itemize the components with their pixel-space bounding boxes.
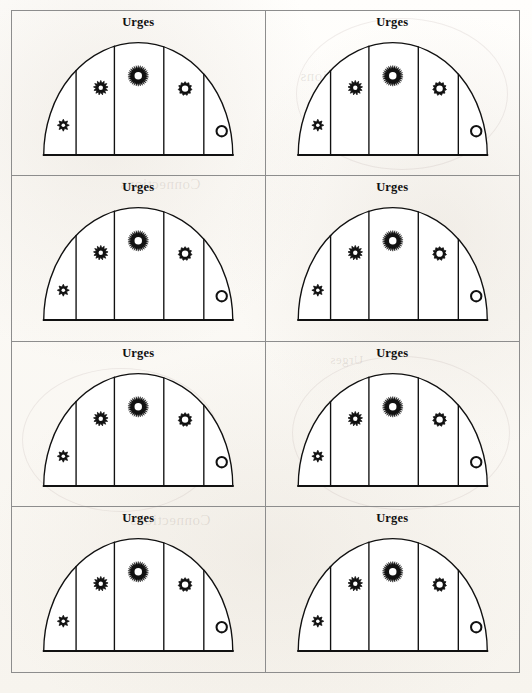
urges-dome-diagram	[266, 194, 520, 326]
eight-point-star-icon	[57, 285, 69, 297]
urges-panel: Urges	[12, 176, 266, 341]
urges-dome-diagram	[266, 29, 520, 161]
dome-container	[266, 360, 520, 492]
plain-circle-icon	[471, 622, 481, 632]
panel-title: Urges	[266, 346, 520, 361]
plain-circle-icon	[471, 457, 481, 467]
panel-title: Urges	[266, 15, 520, 30]
dome-container	[266, 29, 520, 161]
dome-container	[12, 194, 265, 326]
urges-panel: Urges	[12, 342, 266, 507]
panel-title: Urges	[266, 180, 520, 195]
eight-point-star-icon	[57, 450, 69, 462]
urges-dome-diagram	[12, 29, 265, 161]
plain-circle-icon	[471, 126, 481, 136]
urges-panel: Urges	[266, 342, 520, 507]
dome-container	[12, 29, 265, 161]
plain-circle-icon	[217, 126, 227, 136]
urges-dome-diagram	[12, 194, 265, 326]
urges-panel: Urges	[266, 507, 520, 672]
dome-container	[266, 525, 520, 657]
dome-container	[12, 360, 265, 492]
panel-title: Urges	[12, 180, 265, 195]
panel-grid: UrgesUrgesUrgesUrgesUrgesUrgesUrgesUrges	[12, 11, 519, 672]
urges-dome-diagram	[266, 360, 520, 492]
urges-panel: Urges	[266, 176, 520, 341]
urges-dome-diagram	[266, 525, 520, 657]
urges-dome-diagram	[12, 525, 265, 657]
eight-point-star-icon	[311, 615, 323, 627]
eight-point-star-icon	[57, 615, 69, 627]
plain-circle-icon	[217, 457, 227, 467]
eight-point-star-icon	[311, 119, 323, 131]
panel-title: Urges	[266, 511, 520, 526]
dome-container	[12, 525, 265, 657]
urges-dome-diagram	[12, 360, 265, 492]
urges-panel: Urges	[12, 507, 266, 672]
urges-panel: Urges	[266, 11, 520, 176]
eight-point-star-icon	[311, 450, 323, 462]
plain-circle-icon	[217, 622, 227, 632]
eight-point-star-icon	[311, 285, 323, 297]
panel-title: Urges	[12, 346, 265, 361]
urges-panel: Urges	[12, 11, 266, 176]
plain-circle-icon	[217, 291, 227, 301]
sheet-outer-frame: UrgesUrgesUrgesUrgesUrgesUrgesUrgesUrges	[11, 10, 520, 673]
eight-point-star-icon	[57, 119, 69, 131]
scanned-page: ConnectionsConnectionsConnectionsUrgesUr…	[0, 0, 532, 693]
plain-circle-icon	[471, 291, 481, 301]
dome-container	[266, 194, 520, 326]
panel-title: Urges	[12, 511, 265, 526]
panel-title: Urges	[12, 15, 265, 30]
